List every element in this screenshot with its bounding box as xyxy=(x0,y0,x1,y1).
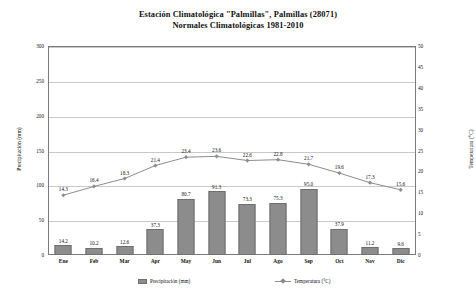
x-axis-tick-label: Mar xyxy=(120,258,130,264)
y-axis-left-tick: 300 xyxy=(22,43,44,49)
y-axis-right-tick: 45 xyxy=(418,64,440,70)
y-axis-right-tick: 40 xyxy=(418,85,440,91)
temperature-value-label: 18.3 xyxy=(120,170,129,176)
temperature-value-label: 17.3 xyxy=(365,174,374,180)
x-axis-tick-label: Sep xyxy=(304,258,312,264)
x-axis-tick-label: Ago xyxy=(273,258,282,264)
temperature-value-label: 23.4 xyxy=(181,148,190,154)
temperature-line: 14.316.418.321.423.423.622.622.821.719.6… xyxy=(48,46,416,255)
x-axis-tick-label: Ene xyxy=(59,258,68,264)
x-axis-tick-label: Jul xyxy=(244,258,251,264)
climate-chart: Estación Climatológica "Palmillas", Palm… xyxy=(0,0,476,303)
legend-label-temperature: Temperatura (°C) xyxy=(294,278,330,284)
y-axis-right-tick: 30 xyxy=(418,127,440,133)
y-axis-left-tick: 250 xyxy=(22,78,44,84)
title-line-2: Normales Climatológicas 1981-2010 xyxy=(0,20,476,31)
temperature-value-label: 22.6 xyxy=(243,152,252,158)
line-marker-icon xyxy=(275,278,291,284)
legend-item-precipitation: Precipitación (mm) xyxy=(138,278,190,284)
y-axis-right-tick: 25 xyxy=(418,148,440,154)
legend-item-temperature: Temperatura (°C) xyxy=(275,278,330,284)
y-axis-right-tick: 50 xyxy=(418,43,440,49)
y-axis-left-tick: 150 xyxy=(22,148,44,154)
temperature-value-label: 23.6 xyxy=(212,147,221,153)
temperature-value-label: 21.4 xyxy=(151,157,160,163)
x-axis-month-labels: EneFebMarAprMayJunJulAgoSepOctNovDic xyxy=(48,258,416,268)
temperature-value-label: 19.6 xyxy=(335,164,344,170)
x-axis-tick-label: Oct xyxy=(335,258,343,264)
y-axis-right-title: Temperatura (°C) xyxy=(468,94,474,204)
x-axis-tick-label: Feb xyxy=(90,258,99,264)
y-axis-right-tick: 0 xyxy=(418,252,440,258)
temperature-value-label: 16.4 xyxy=(89,177,98,183)
y-axis-right-tick: 20 xyxy=(418,168,440,174)
y-axis-right-tick: 10 xyxy=(418,210,440,216)
chart-legend: Precipitación (mm) Temperatura (°C) xyxy=(0,278,476,290)
temperature-value-label: 15.6 xyxy=(396,181,405,187)
y-axis-right-tick: 15 xyxy=(418,189,440,195)
bar-swatch-icon xyxy=(138,279,147,284)
x-axis-tick-label: Apr xyxy=(151,258,160,264)
temperature-value-label: 22.8 xyxy=(273,151,282,157)
y-axis-left-tick: 50 xyxy=(22,217,44,223)
x-axis-tick-label: Dic xyxy=(397,258,405,264)
x-axis-tick-label: Nov xyxy=(365,258,374,264)
y-axis-left-tick: 100 xyxy=(22,182,44,188)
temperature-value-label: 21.7 xyxy=(304,155,313,161)
temperature-polyline xyxy=(48,46,416,255)
x-axis-tick-label: May xyxy=(181,258,191,264)
y-axis-right-tick: 35 xyxy=(418,106,440,112)
temperature-value-label: 14.3 xyxy=(59,186,68,192)
legend-label-precipitation: Precipitación (mm) xyxy=(150,278,190,284)
y-axis-right-tick: 5 xyxy=(418,231,440,237)
y-axis-left-tick: 200 xyxy=(22,113,44,119)
x-axis-tick-label: Jun xyxy=(212,258,221,264)
chart-title: Estación Climatológica "Palmillas", Palm… xyxy=(0,9,476,31)
y-axis-left-tick: 0 xyxy=(22,252,44,258)
title-line-1: Estación Climatológica "Palmillas", Palm… xyxy=(0,9,476,20)
y-axis-left-title: Precipitación (mm) xyxy=(16,94,22,204)
